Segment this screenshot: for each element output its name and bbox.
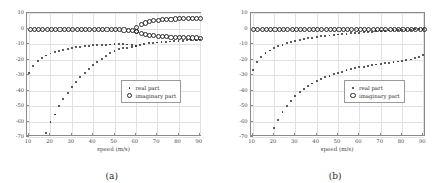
- x-axis-tick-label: 30: [68, 138, 75, 144]
- plot-area-a: 102030405060708090100-10-20-30-40-50-60-…: [0, 0, 224, 160]
- y-axis-tick-label: -60: [16, 118, 24, 124]
- y-axis-tick-label: -30: [16, 71, 24, 77]
- data-point: [320, 35, 322, 37]
- y-axis-tick-label: -50: [239, 102, 247, 108]
- data-point: [139, 44, 141, 46]
- y-axis-tick-label: -10: [16, 40, 24, 46]
- x-axis-tick-label: 40: [312, 138, 319, 144]
- y-axis-tick-label: -10: [239, 40, 247, 46]
- data-point: [320, 78, 322, 80]
- data-point: [79, 76, 81, 78]
- data-point: [41, 57, 43, 59]
- data-point: [58, 105, 60, 107]
- data-point: [311, 83, 313, 85]
- y-axis-tick-label: -20: [239, 56, 247, 62]
- legend-marker-real-icon: [348, 87, 358, 89]
- x-axis-tick: [294, 133, 295, 136]
- data-point: [299, 39, 301, 41]
- grid-line-horizontal: [251, 75, 424, 76]
- data-point: [354, 67, 356, 69]
- plot-area-b: 102030405060708090100-10-20-30-40-50-60-…: [224, 0, 447, 160]
- data-point: [341, 71, 343, 73]
- axes-frame: [26, 12, 201, 136]
- figure-two-panel-scatter: 102030405060708090100-10-20-30-40-50-60-…: [0, 0, 447, 183]
- data-point: [324, 35, 326, 37]
- subfigure-caption-b: (b): [329, 171, 342, 181]
- data-point: [173, 40, 175, 42]
- data-point: [79, 46, 81, 48]
- data-point: [367, 65, 369, 67]
- y-axis-tick-label: -40: [239, 87, 247, 93]
- data-point: [198, 16, 203, 21]
- data-point: [62, 49, 64, 51]
- data-point: [354, 32, 356, 34]
- x-axis-tick: [401, 133, 402, 136]
- subfigure-caption-a: (a): [106, 171, 118, 181]
- y-axis-tick: [250, 12, 253, 13]
- panel-b: 102030405060708090100-10-20-30-40-50-60-…: [224, 0, 447, 183]
- y-axis-tick-label: -70: [239, 133, 247, 139]
- data-point: [286, 42, 288, 44]
- data-point: [109, 52, 111, 54]
- data-point: [84, 72, 86, 74]
- data-point: [122, 47, 124, 49]
- y-axis-tick-label: -60: [239, 118, 247, 124]
- x-axis-tick: [358, 133, 359, 136]
- legend-marker-imaginary: [127, 93, 132, 98]
- y-axis-tick-label: 10: [241, 9, 248, 15]
- y-axis-tick-label: -30: [239, 71, 247, 77]
- panel-a: 102030405060708090100-10-20-30-40-50-60-…: [0, 0, 224, 183]
- y-axis-tick-label: 10: [17, 9, 24, 15]
- x-axis-tick: [114, 133, 115, 136]
- data-point: [307, 85, 309, 87]
- y-axis-tick: [250, 59, 253, 60]
- legend-label-real: real part: [358, 85, 383, 91]
- data-point: [303, 38, 305, 40]
- data-point: [109, 44, 111, 46]
- grid-line-horizontal: [251, 13, 424, 14]
- data-point: [282, 111, 284, 113]
- data-point: [252, 69, 254, 71]
- x-axis-tick-label: 90: [419, 138, 426, 144]
- data-point: [393, 61, 395, 63]
- grid-line-horizontal: [27, 13, 200, 14]
- x-axis-label: speed (m/s): [97, 146, 130, 152]
- y-axis-tick: [26, 59, 29, 60]
- data-point: [118, 48, 120, 50]
- x-axis-tick: [337, 133, 338, 136]
- y-axis-tick: [26, 90, 29, 91]
- data-point: [286, 105, 288, 107]
- y-axis-tick: [250, 105, 253, 106]
- y-axis-tick: [26, 43, 29, 44]
- legend: real partimaginary part: [344, 80, 405, 103]
- data-point: [54, 114, 56, 116]
- data-point: [384, 62, 386, 64]
- data-point: [388, 62, 390, 64]
- legend-label-real: real part: [135, 85, 160, 91]
- data-point: [105, 44, 107, 46]
- x-axis-tick-label: 10: [248, 138, 255, 144]
- data-point: [88, 68, 90, 70]
- x-axis-tick: [316, 133, 317, 136]
- legend-marker-real-icon: [125, 87, 135, 89]
- data-point: [316, 36, 318, 38]
- data-point: [337, 72, 339, 74]
- y-axis-tick: [26, 28, 29, 29]
- y-axis-tick: [250, 43, 253, 44]
- data-point: [418, 56, 420, 58]
- data-point: [101, 58, 103, 60]
- data-point: [67, 48, 69, 50]
- y-axis-tick-label: 0: [21, 25, 24, 31]
- legend: real partimaginary part: [121, 80, 182, 103]
- data-point: [169, 41, 171, 43]
- data-point: [350, 68, 352, 70]
- y-axis-tick: [250, 28, 253, 29]
- data-point: [165, 41, 167, 43]
- legend-item: imaginary part: [348, 92, 400, 100]
- x-axis-tick-label: 70: [376, 138, 383, 144]
- x-axis-tick-label: 30: [291, 138, 298, 144]
- y-axis-tick: [26, 12, 29, 13]
- data-point: [37, 60, 39, 62]
- legend-label-imaginary: imaginary part: [358, 93, 400, 99]
- data-point: [303, 88, 305, 90]
